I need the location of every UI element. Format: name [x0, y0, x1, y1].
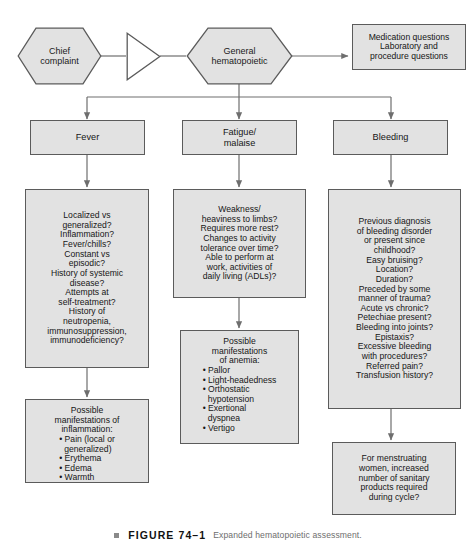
triangle-connector-icon [126, 32, 161, 81]
list-item: • Exertional dyspnea [203, 404, 277, 423]
node-fever-questions-label: Localized vs generalized? Inflammation? … [44, 211, 129, 346]
node-general-hematopoietic[interactable]: General hematopoietic [186, 27, 293, 85]
anemia-bullet-list: • Pallor • Light-headedness • Orthostati… [203, 366, 277, 433]
node-fever-questions[interactable]: Localized vs generalized? Inflammation? … [25, 189, 149, 368]
figure-number: FIGURE 74–1 [128, 529, 206, 541]
list-item: • Pain (local or generalized) [59, 435, 115, 454]
node-anemia-manifestations[interactable]: Possible manifestations of anemia: • Pal… [180, 330, 299, 444]
node-bleeding-questions[interactable]: Previous diagnosis of bleeding disorder … [328, 189, 461, 409]
list-item: • Warmth [59, 473, 115, 483]
node-chief-complaint[interactable]: Chief complaint [17, 27, 102, 85]
anemia-heading: Possible manifestations of anemia: [203, 337, 277, 366]
node-bleeding-questions-label: Previous diagnosis of bleeding disorder … [353, 217, 436, 381]
node-branch-bleeding-label: Bleeding [370, 132, 412, 142]
list-item: • Vertigo [203, 424, 277, 434]
node-general-hematopoietic-label: General hematopoietic [186, 27, 293, 85]
node-medication-questions[interactable]: Medication questions Laboratory and proc… [352, 24, 466, 70]
inflammation-bullet-list: • Pain (local or generalized) • Erythema… [59, 435, 115, 483]
node-chief-complaint-label: Chief complaint [17, 27, 102, 85]
node-branch-bleeding[interactable]: Bleeding [333, 120, 448, 155]
triangle-shape [126, 32, 161, 81]
figure-caption: FIGURE 74–1 Expanded hematopoietic asses… [0, 524, 476, 546]
square-marker-icon [114, 533, 119, 538]
node-inflammation-manifestations[interactable]: Possible manifestations of inflammation:… [25, 399, 149, 483]
node-branch-fever-label: Fever [73, 132, 103, 142]
inflammation-heading: Possible manifestations of inflammation: [55, 406, 120, 435]
flowchart-canvas: Chief complaint General hematopoietic Me… [0, 0, 476, 552]
node-branch-fatigue-label: Fatigue/ malaise [220, 127, 259, 148]
node-menstruating-note-label: For menstruating women, increased number… [355, 454, 432, 502]
node-branch-fatigue[interactable]: Fatigue/ malaise [182, 120, 297, 155]
list-item: • Orthostatic hypotension [203, 385, 277, 404]
node-fatigue-questions-label: Weakness/ heaviness to limbs? Requires m… [198, 205, 282, 282]
node-medication-questions-label: Medication questions Laboratory and proc… [366, 33, 453, 62]
node-menstruating-note[interactable]: For menstruating women, increased number… [332, 442, 456, 515]
figure-caption-text: Expanded hematopoietic assessment. [213, 530, 362, 540]
node-fatigue-questions[interactable]: Weakness/ heaviness to limbs? Requires m… [173, 189, 306, 298]
node-branch-fever[interactable]: Fever [30, 120, 145, 155]
